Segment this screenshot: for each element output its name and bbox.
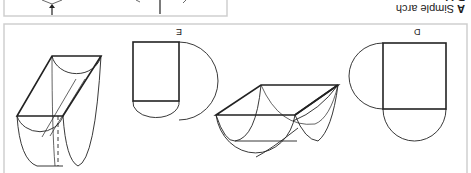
figure-d: [349, 43, 446, 141]
diagram-canvas: [0, 0, 471, 173]
caption-a-text: Simple arch: [396, 3, 454, 15]
figure-barrel-vault: [216, 85, 338, 157]
figure-e: [133, 42, 218, 120]
top-panel: [4, 0, 227, 16]
caption-b-text: M...: [436, 0, 454, 3]
panel-label-e: E: [176, 27, 182, 37]
caption-b-key: B: [457, 0, 465, 3]
arrow-up-icon: [42, 0, 62, 15]
caption-b: B M...: [436, 0, 465, 3]
caption-a: A Simple arch: [396, 3, 465, 15]
caption-a-key: A: [457, 3, 465, 15]
figure-tall-vault: [17, 56, 101, 166]
panel-label-d: D: [414, 27, 421, 37]
